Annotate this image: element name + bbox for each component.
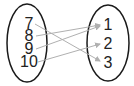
mapping-diagram: 7 8 9 10 1 2 3 <box>0 0 134 86</box>
left-item: 10 <box>20 53 38 70</box>
right-item: 3 <box>104 54 113 71</box>
right-item: 1 <box>104 16 113 33</box>
right-item: 2 <box>104 35 113 52</box>
